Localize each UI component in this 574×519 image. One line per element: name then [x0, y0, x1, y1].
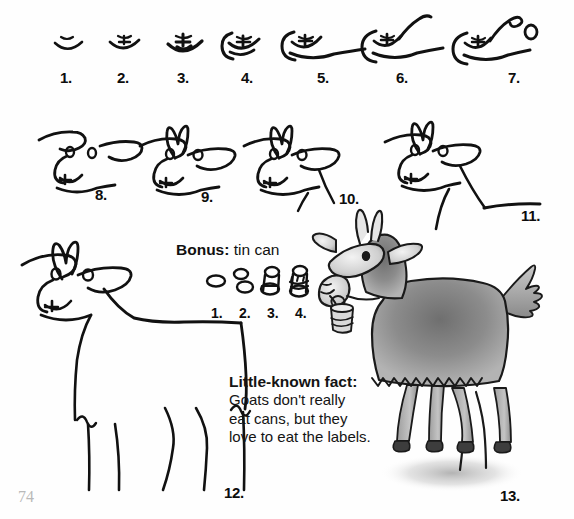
- drawing-lesson-page: 1. 2. 3. 4. 5. 6. 7. 8. 9. 10. 11. 12. 1…: [0, 0, 574, 519]
- fact-title: Little-known fact:: [229, 372, 379, 391]
- bonus-step-2-drawing: [234, 269, 253, 293]
- step-number-3: 3.: [177, 69, 189, 86]
- step-number-12: 12.: [224, 484, 244, 501]
- step-number-10: 10.: [339, 190, 359, 207]
- step-number-6: 6.: [396, 69, 408, 86]
- step-number-9: 9.: [201, 188, 213, 205]
- page-number: 74: [18, 488, 34, 506]
- bonus-step-number-3: 3.: [267, 305, 279, 321]
- bonus-step-4-drawing: [290, 266, 308, 297]
- step-number-8: 8.: [95, 186, 107, 203]
- bonus-title: Bonus:: [176, 241, 229, 258]
- step-number-2: 2.: [117, 69, 129, 86]
- bonus-step-1-drawing: [207, 276, 225, 287]
- step-number-5: 5.: [317, 69, 329, 86]
- bonus-subject: tin can: [234, 241, 280, 258]
- bonus-step-number-1: 1.: [211, 305, 223, 321]
- bonus-step-3-drawing: [261, 267, 279, 295]
- fact-line-3: love to eat the labels.: [229, 428, 379, 447]
- fact-line-1: Goats don't really: [229, 391, 379, 410]
- bonus-step-number-4: 4.: [295, 305, 307, 321]
- little-known-fact-block: Little-known fact: Goats don't really ea…: [229, 372, 379, 447]
- bonus-step-number-2: 2.: [239, 305, 251, 321]
- step-number-4: 4.: [241, 69, 253, 86]
- step-number-11: 11.: [521, 207, 540, 224]
- step-number-7: 7.: [508, 69, 520, 86]
- step-number-13: 13.: [500, 487, 520, 504]
- step-number-1: 1.: [60, 69, 72, 86]
- fact-line-2: eat cans, but they: [229, 410, 379, 429]
- bonus-heading: Bonus: tin can: [176, 241, 279, 259]
